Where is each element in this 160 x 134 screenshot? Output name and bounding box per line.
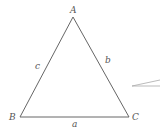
triangle-diagram: A B C a b c bbox=[0, 0, 160, 134]
side-label-a: a bbox=[72, 119, 77, 129]
vertex-label-c: C bbox=[132, 112, 139, 122]
vertex-label-b: B bbox=[8, 112, 16, 122]
vertex-label-a: A bbox=[69, 5, 77, 15]
partial-shape-right bbox=[132, 80, 160, 86]
side-label-b: b bbox=[105, 55, 111, 65]
side-label-c: c bbox=[35, 61, 40, 71]
